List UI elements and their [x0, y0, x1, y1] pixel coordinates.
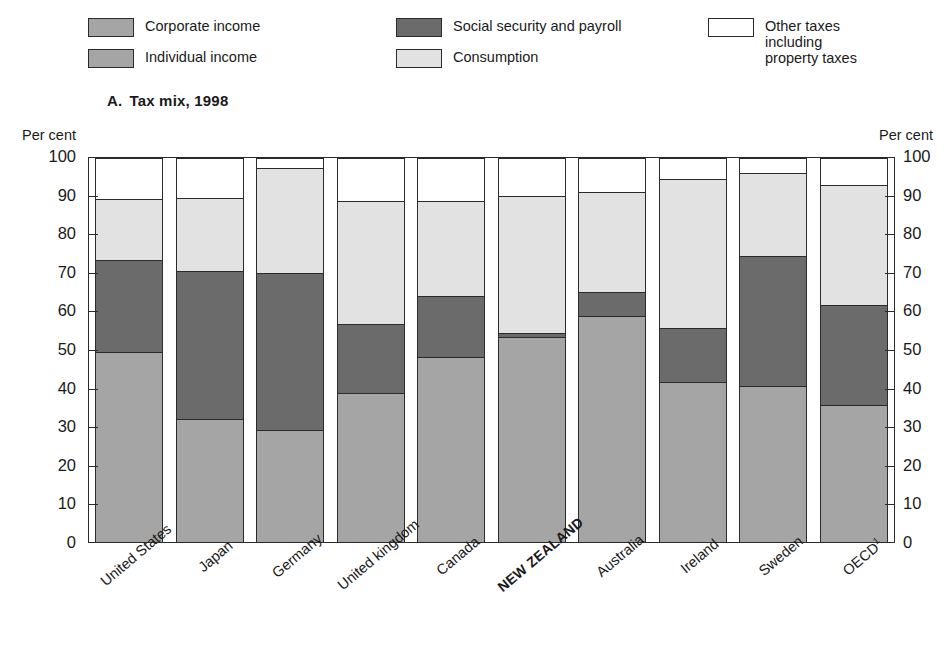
segment-other	[660, 158, 726, 179]
plot-area	[88, 157, 895, 543]
segment-individual	[338, 393, 404, 499]
legend-item-individual-income: Individual income	[88, 47, 260, 78]
y-tick-label-left-60: 60	[16, 301, 76, 320]
x-label-cell: Japan	[169, 545, 250, 663]
segment-other	[740, 158, 806, 173]
bar-cell-oecd	[814, 158, 895, 542]
bar-cell-new-zealand	[492, 158, 573, 542]
segment-consumption	[579, 192, 645, 292]
legend-swatch-individual-income	[88, 49, 134, 68]
segment-consumption	[177, 198, 243, 271]
segment-consumption	[257, 168, 323, 274]
segment-other	[96, 158, 162, 199]
segment-social	[418, 296, 484, 357]
legend-column-3: Other taxes including property taxes	[708, 16, 888, 47]
bar-united-states[interactable]	[95, 158, 163, 542]
segment-individual	[740, 386, 806, 519]
legend-item-social-security: Social security and payroll	[396, 16, 621, 47]
y-tick-label-right-20: 20	[903, 456, 943, 475]
x-axis-labels: United StatesJapanGermanyUnited kingdomC…	[88, 545, 895, 663]
bar-ireland[interactable]	[659, 158, 727, 542]
legend-label-corporate-income: Corporate income	[145, 16, 260, 34]
bar-cell-united-kingdom	[331, 158, 412, 542]
segment-social	[96, 260, 162, 352]
y-tick-label-left-20: 20	[16, 456, 76, 475]
segment-social	[821, 305, 887, 404]
bar-germany[interactable]	[256, 158, 324, 542]
x-label-cell: Germany	[249, 545, 330, 663]
segment-consumption	[740, 173, 806, 256]
legend-label-other-taxes: Other taxes including property taxes	[765, 16, 888, 66]
segment-individual	[660, 382, 726, 501]
y-tick-label-left-80: 80	[16, 224, 76, 243]
segment-consumption	[499, 196, 565, 333]
bar-canada[interactable]	[417, 158, 485, 542]
segment-individual	[418, 357, 484, 501]
y-tick-label-left-70: 70	[16, 263, 76, 282]
y-tick-label-right-90: 90	[903, 186, 943, 205]
segment-other	[579, 158, 645, 192]
segment-social	[660, 328, 726, 382]
segment-individual	[499, 337, 565, 500]
legend-label-social-security: Social security and payroll	[453, 16, 621, 34]
bar-new-zealand[interactable]	[498, 158, 566, 542]
segment-individual	[96, 352, 162, 507]
segment-individual	[177, 419, 243, 490]
segment-other	[257, 158, 323, 168]
segment-consumption	[660, 179, 726, 328]
legend-column-2: Social security and payroll Consumption	[396, 16, 621, 78]
y-tick-label-left-30: 30	[16, 417, 76, 436]
legend-item-consumption: Consumption	[396, 47, 621, 78]
bar-cell-australia	[572, 158, 653, 542]
segment-social	[177, 271, 243, 419]
y-tick-label-right-100: 100	[903, 147, 943, 166]
y-tick-label-right-0: 0	[903, 533, 943, 552]
y-tick-label-left-90: 90	[16, 186, 76, 205]
y-tick-label-left-10: 10	[16, 494, 76, 513]
x-label-cell: Australia	[572, 545, 653, 663]
bar-japan[interactable]	[176, 158, 244, 542]
bar-cell-united-states	[89, 158, 170, 542]
segment-consumption	[821, 185, 887, 305]
y-axis-unit-left: Per cent	[22, 127, 76, 143]
bar-australia[interactable]	[578, 158, 646, 542]
bar-sweden[interactable]	[739, 158, 807, 542]
segment-individual	[257, 430, 323, 524]
y-tick-label-right-70: 70	[903, 263, 943, 282]
x-label-cell: NEW ZEALAND	[492, 545, 573, 663]
bar-cell-japan	[170, 158, 251, 542]
panel-letter: A.	[107, 92, 122, 109]
panel-title: A.Tax mix, 1998	[107, 92, 228, 109]
y-tick-label-left-0: 0	[16, 533, 76, 552]
y-tick-label-right-80: 80	[903, 224, 943, 243]
x-label-cell: United States	[88, 545, 169, 663]
chart-page: Corporate income Individual income Socia…	[0, 0, 947, 663]
bar-oecd[interactable]	[820, 158, 888, 542]
segment-individual	[579, 316, 645, 482]
y-tick-label-right-30: 30	[903, 417, 943, 436]
bar-group	[89, 158, 894, 542]
segment-individual	[821, 405, 887, 507]
segment-other	[499, 158, 565, 196]
y-tick-label-left-50: 50	[16, 340, 76, 359]
bar-cell-ireland	[653, 158, 734, 542]
segment-other	[338, 158, 404, 201]
y-axis-unit-right: Per cent	[879, 127, 933, 143]
bar-united-kingdom[interactable]	[337, 158, 405, 542]
legend-label-individual-income: Individual income	[145, 47, 257, 65]
segment-corporate	[177, 490, 243, 542]
x-label-cell: United kingdom	[330, 545, 411, 663]
x-label-cell: OECD1	[814, 545, 895, 663]
legend-column-1: Corporate income Individual income	[88, 16, 260, 78]
y-tick-label-right-40: 40	[903, 379, 943, 398]
segment-consumption	[338, 201, 404, 324]
x-label-cell: Canada	[411, 545, 492, 663]
legend-swatch-other-taxes	[708, 18, 754, 37]
segment-corporate	[660, 501, 726, 542]
legend-label-consumption: Consumption	[453, 47, 538, 65]
segment-other	[418, 158, 484, 201]
segment-other	[821, 158, 887, 185]
legend-swatch-consumption	[396, 49, 442, 68]
chart-legend: Corporate income Individual income Socia…	[88, 16, 888, 78]
segment-consumption	[96, 199, 162, 260]
